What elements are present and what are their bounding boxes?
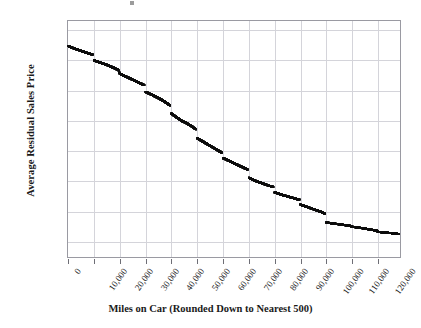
x-tick-mark [352, 259, 353, 264]
x-gridline [120, 21, 121, 257]
data-point [220, 151, 223, 154]
x-tick-mark [326, 259, 327, 264]
x-gridline [146, 21, 147, 257]
x-tick-label: 10,000 [107, 267, 129, 292]
x-tick-mark [301, 259, 302, 264]
y-axis-title: Average Residual Sales Price [25, 31, 36, 231]
x-gridline [171, 21, 172, 257]
x-tick-label: 90,000 [314, 267, 336, 292]
x-tick-label: 40,000 [185, 267, 207, 292]
x-tick-label: 0 [73, 267, 83, 276]
y-gridline [68, 212, 400, 213]
data-point [91, 53, 94, 56]
x-gridline [94, 21, 95, 257]
x-tick-mark [197, 259, 198, 264]
x-tick-mark [249, 259, 250, 264]
plot-area: 010,00020,00030,00040,00050,00060,00070,… [67, 20, 401, 258]
data-point [195, 128, 198, 131]
y-gridline [68, 91, 400, 92]
x-tick-mark [120, 259, 121, 264]
x-tick-label: 60,000 [237, 267, 259, 292]
data-point [298, 198, 301, 201]
x-gridline [378, 21, 379, 257]
x-tick-label: 70,000 [262, 267, 284, 292]
x-tick-mark [94, 259, 95, 264]
page-artifact-mark [130, 1, 134, 5]
x-gridline [249, 21, 250, 257]
data-point [246, 168, 249, 171]
x-tick-mark [146, 259, 147, 264]
x-gridline [352, 21, 353, 257]
y-gridline [68, 60, 400, 61]
x-tick-mark [275, 259, 276, 264]
x-tick-mark [171, 259, 172, 264]
y-gridline [68, 121, 400, 122]
x-tick-label: 20,000 [133, 267, 155, 292]
x-gridline [301, 21, 302, 257]
x-gridline [275, 21, 276, 257]
x-tick-label: 100,000 [342, 267, 366, 296]
x-tick-label: 50,000 [211, 267, 233, 292]
y-gridline [68, 30, 400, 31]
x-tick-label: 80,000 [288, 267, 310, 292]
y-gridline [68, 181, 400, 182]
x-axis-title: Miles on Car (Rounded Down to Nearest 50… [0, 303, 421, 314]
x-tick-mark [223, 259, 224, 264]
x-tick-mark [68, 259, 69, 264]
x-tick-mark [378, 259, 379, 264]
data-point [397, 233, 400, 236]
x-tick-label: 30,000 [159, 267, 181, 292]
x-tick-label: 120,000 [394, 267, 418, 296]
y-gridline [68, 242, 400, 243]
chart-figure: Average Residual Sales Price 010,00020,0… [0, 0, 421, 328]
x-gridline [223, 21, 224, 257]
y-gridline [68, 151, 400, 152]
x-tick-label: 110,000 [368, 267, 392, 296]
